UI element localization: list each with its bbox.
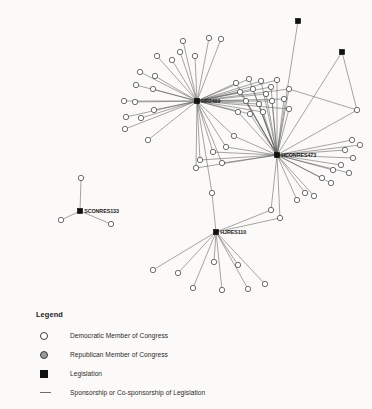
democratic-member-node[interactable] xyxy=(235,262,240,267)
legislation-label: HR2499 xyxy=(201,98,220,104)
network-edge xyxy=(178,232,216,273)
legislation-node[interactable] xyxy=(295,18,300,23)
democratic-member-node[interactable] xyxy=(180,38,185,43)
legend-label-legislation: Legislation xyxy=(70,370,102,377)
democratic-member-node[interactable] xyxy=(250,86,255,91)
network-edge xyxy=(200,155,277,160)
legend-item-democratic: Democratic Member of Congress xyxy=(36,326,336,345)
democratic-member-node[interactable] xyxy=(243,98,248,103)
democratic-member-node[interactable] xyxy=(268,84,273,89)
democratic-member-node[interactable] xyxy=(193,165,198,170)
democratic-member-node[interactable] xyxy=(78,175,83,180)
democratic-member-node[interactable] xyxy=(349,137,354,142)
network-edge xyxy=(148,101,197,140)
democratic-member-node[interactable] xyxy=(319,175,324,180)
network-edge xyxy=(238,112,277,155)
democratic-member-node[interactable] xyxy=(346,170,351,175)
democratic-member-node[interactable] xyxy=(206,35,211,40)
democratic-member-node[interactable] xyxy=(258,78,263,83)
democratic-member-node[interactable] xyxy=(154,53,159,58)
democratic-member-node[interactable] xyxy=(281,96,286,101)
democratic-member-node[interactable] xyxy=(354,107,359,112)
legislation-node[interactable] xyxy=(194,98,199,103)
legislation-node[interactable] xyxy=(213,229,218,234)
democratic-member-node[interactable] xyxy=(209,190,214,195)
democratic-member-node[interactable] xyxy=(231,133,236,138)
black-square-icon xyxy=(36,370,70,378)
network-edge xyxy=(342,52,357,110)
network-edge xyxy=(157,56,197,101)
democratic-member-node[interactable] xyxy=(150,267,155,272)
legend-label-democratic: Democratic Member of Congress xyxy=(70,332,168,339)
democratic-member-node[interactable] xyxy=(138,115,143,120)
democratic-member-node[interactable] xyxy=(277,215,282,220)
democratic-member-node[interactable] xyxy=(357,142,362,147)
democratic-member-node[interactable] xyxy=(58,217,63,222)
democratic-member-node[interactable] xyxy=(169,57,174,62)
democratic-member-node[interactable] xyxy=(223,144,228,149)
legislation-label: HJRES110 xyxy=(220,229,246,235)
democratic-member-node[interactable] xyxy=(219,160,224,165)
democratic-member-node[interactable] xyxy=(123,114,128,119)
democratic-member-node[interactable] xyxy=(350,155,355,160)
network-edge xyxy=(216,232,238,265)
democratic-member-node[interactable] xyxy=(302,190,307,195)
network-edge xyxy=(196,155,277,168)
legislation-node[interactable] xyxy=(339,49,344,54)
democratic-member-node[interactable] xyxy=(210,149,215,154)
legend-title: Legend xyxy=(36,310,336,319)
democratic-member-node[interactable] xyxy=(262,281,267,286)
democratic-member-node[interactable] xyxy=(330,167,335,172)
democratic-member-node[interactable] xyxy=(108,221,113,226)
network-edge xyxy=(277,155,314,196)
legislation-node[interactable] xyxy=(274,152,279,157)
network-edge xyxy=(197,101,222,163)
democratic-member-node[interactable] xyxy=(177,49,182,54)
democratic-member-node[interactable] xyxy=(122,126,127,131)
democratic-member-node[interactable] xyxy=(132,99,137,104)
democratic-member-node[interactable] xyxy=(237,89,242,94)
democratic-member-node[interactable] xyxy=(294,197,299,202)
democratic-member-node[interactable] xyxy=(152,73,157,78)
hollow-circle-icon xyxy=(36,332,70,340)
democratic-member-node[interactable] xyxy=(197,157,202,162)
democratic-member-node[interactable] xyxy=(274,77,279,82)
democratic-member-node[interactable] xyxy=(268,207,273,212)
democratic-member-node[interactable] xyxy=(269,98,274,103)
democratic-member-node[interactable] xyxy=(137,69,142,74)
democratic-member-node[interactable] xyxy=(246,76,251,81)
democratic-member-node[interactable] xyxy=(311,193,316,198)
democratic-member-node[interactable] xyxy=(342,147,347,152)
democratic-member-node[interactable] xyxy=(133,82,138,87)
democratic-member-node[interactable] xyxy=(145,137,150,142)
democratic-member-node[interactable] xyxy=(190,285,195,290)
legend-label-republican: Republican Member of Congress xyxy=(70,351,168,358)
democratic-member-node[interactable] xyxy=(263,91,268,96)
democratic-member-node[interactable] xyxy=(247,111,252,116)
legislation-label: SCONRES133 xyxy=(84,208,119,214)
democratic-member-node[interactable] xyxy=(219,287,224,292)
network-edge xyxy=(197,38,209,101)
democratic-member-node[interactable] xyxy=(121,98,126,103)
democratic-member-node[interactable] xyxy=(256,101,261,106)
democratic-member-node[interactable] xyxy=(260,109,265,114)
democratic-member-node[interactable] xyxy=(150,86,155,91)
network-graph-canvas: HR2499HCONRES473HJRES110SCONRES133 xyxy=(0,0,372,300)
democratic-member-node[interactable] xyxy=(233,80,238,85)
democratic-member-node[interactable] xyxy=(286,86,291,91)
legend-item-edge: Sponsorship or Co-sponsorship of Legisla… xyxy=(36,383,336,402)
democratic-member-node[interactable] xyxy=(245,286,250,291)
network-edge xyxy=(277,155,297,200)
democratic-member-node[interactable] xyxy=(175,270,180,275)
gray-circle-icon xyxy=(36,351,70,359)
legislation-node[interactable] xyxy=(77,208,82,213)
democratic-member-node[interactable] xyxy=(151,107,156,112)
democratic-member-node[interactable] xyxy=(286,106,291,111)
democratic-member-node[interactable] xyxy=(338,162,343,167)
democratic-member-node[interactable] xyxy=(211,259,216,264)
network-edge xyxy=(289,89,357,110)
democratic-member-node[interactable] xyxy=(218,36,223,41)
democratic-member-node[interactable] xyxy=(235,109,240,114)
democratic-member-node[interactable] xyxy=(328,180,333,185)
democratic-member-node[interactable] xyxy=(192,53,197,58)
